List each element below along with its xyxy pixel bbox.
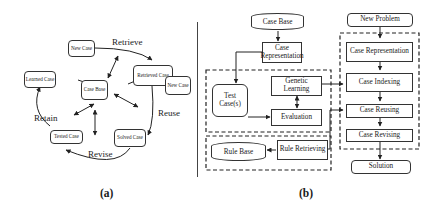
node-genetic-learning: Genetic Learning <box>271 76 322 96</box>
panel-divider <box>197 22 198 177</box>
retrieve-arrow <box>95 48 152 60</box>
node-evaluation: Evaluation <box>271 109 322 126</box>
reuse-arrow <box>148 86 153 135</box>
node-new-case-2: New Case <box>165 76 191 95</box>
panel-label-a: (a) <box>100 187 113 199</box>
node-new-problem: New Problem <box>347 13 413 27</box>
node-case-representation-left: Case Representation <box>262 42 302 63</box>
node-case-reusing: Case Reusing <box>346 104 413 118</box>
node-new-case: New Case <box>68 40 95 57</box>
edge-label-reuse: Reuse <box>158 108 180 118</box>
node-solved-case: Solved Case <box>114 129 146 147</box>
node-rule-base-cylinder: Rule Base <box>211 142 266 161</box>
panel-label-b: (b) <box>299 187 313 199</box>
node-tested-case: Tested Case <box>50 130 83 144</box>
node-case-revising: Case Revising <box>346 129 413 142</box>
node-case-base-cylinder: Case Base <box>251 13 304 30</box>
node-case-base: Case Base <box>81 80 108 100</box>
edge-label-retrieve: Retrieve <box>112 37 143 47</box>
edge-label-revise: Revise <box>88 149 113 159</box>
node-test-cases: Test Case(s) <box>212 84 248 117</box>
node-rule-retrieving: Rule Retrieving <box>277 140 328 160</box>
node-learned-case: Learned Case <box>24 71 56 88</box>
node-solution: Solution <box>351 160 411 174</box>
node-case-representation-right: Case Representation <box>346 42 413 62</box>
node-case-indexing: Case Indexing <box>346 73 413 92</box>
edge-label-retain: Retain <box>34 113 58 123</box>
